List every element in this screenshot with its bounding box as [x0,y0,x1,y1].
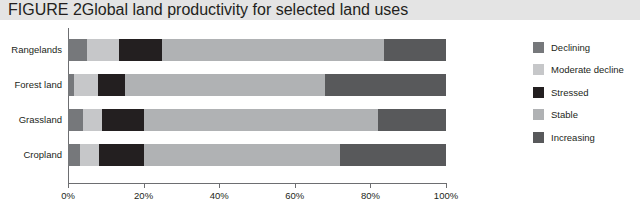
x-axis-line [68,183,447,184]
legend-swatch-icon [533,109,544,120]
legend-item[interactable]: Increasing [533,131,638,143]
bar-segment [378,109,446,131]
x-axis-tick-label: 100% [434,190,458,201]
bar-segment [102,109,144,131]
x-axis-tick-label: 0% [61,190,75,201]
bar-segment [162,39,383,61]
bar-segment [144,144,341,166]
bar-segment [68,109,83,131]
legend-label: Declining [551,42,590,53]
bar-segment [74,74,98,96]
bar-segment [83,109,102,131]
bar-segment [98,74,124,96]
legend-label: Increasing [551,132,595,143]
bar-row [68,74,446,96]
x-axis-tick [144,183,145,188]
x-axis-tick-label: 60% [285,190,304,201]
x-axis-tick [219,183,220,188]
bar-segment [80,144,99,166]
legend-item[interactable]: Stressed [533,86,638,98]
category-label: Forest land [0,79,62,90]
figure-number: FIGURE 2 [8,1,82,19]
bar-segment [68,144,80,166]
x-axis-tick [68,183,69,188]
chart-legend: DecliningModerate declineStressedStableI… [533,41,638,154]
legend-item[interactable]: Moderate decline [533,64,638,76]
legend-item[interactable]: Declining [533,41,638,53]
legend-item[interactable]: Stable [533,109,638,121]
legend-swatch-icon [533,87,544,98]
legend-swatch-icon [533,64,544,75]
x-axis-tick [295,183,296,188]
x-axis-tick [370,183,371,188]
bar-segment [99,144,144,166]
bar-row [68,39,446,61]
legend-label: Stable [551,109,578,120]
page-title: Global land productivity for selected la… [82,1,408,19]
legend-swatch-icon [533,42,544,53]
x-axis-tick-label: 20% [134,190,153,201]
legend-swatch-icon [533,132,544,143]
chart-region: RangelandsForest landGrasslandCropland 0… [0,20,500,213]
bar-segment [125,74,325,96]
x-axis-tick [446,183,447,188]
bar-row [68,144,446,166]
plot-area [68,20,446,180]
bar-segment [340,144,446,166]
category-label: Grassland [0,114,62,125]
bar-segment [325,74,446,96]
category-label: Cropland [0,149,62,160]
legend-label: Stressed [551,87,589,98]
x-axis-tick-label: 80% [361,190,380,201]
bar-segment [87,39,119,61]
x-axis-tick-label: 40% [210,190,229,201]
figure-title-bar: FIGURE 2 Global land productivity for se… [0,0,640,20]
bar-segment [119,39,162,61]
category-axis-labels: RangelandsForest landGrasslandCropland [0,20,62,180]
bar-segment [68,39,87,61]
bar-row [68,109,446,131]
legend-label: Moderate decline [551,64,624,75]
bar-segment [384,39,446,61]
bar-segment [144,109,378,131]
category-label: Rangelands [0,44,62,55]
